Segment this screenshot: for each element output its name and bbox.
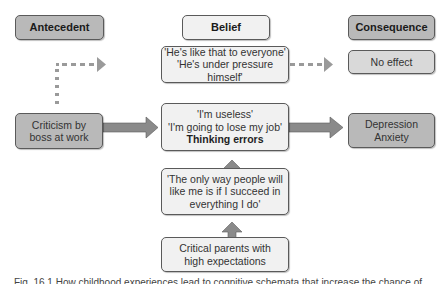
alt-belief-line1: 'He's like that to everyone'	[164, 46, 286, 59]
belief-header-label: Belief	[211, 21, 241, 34]
belief-header: Belief	[182, 15, 270, 40]
consequence-header-label: Consequence	[355, 21, 427, 34]
core-belief-line3: everything I do'	[190, 198, 261, 211]
no-effect-label: No effect	[371, 56, 413, 69]
parents-line1: Critical parents with	[179, 242, 271, 255]
critical-parents-node: Critical parents with high expectations	[161, 237, 289, 272]
arrow-belief-to-depression	[289, 117, 343, 138]
belief-main-line3: Thinking errors	[186, 133, 263, 146]
core-belief-line1: 'The only way people will	[167, 173, 283, 186]
arrow-criticism-to-belief	[103, 117, 158, 138]
dotted-arrow-criticism-to-alt-belief	[55, 57, 106, 104]
alt-belief-line2: 'He's under pressure himself'	[162, 58, 288, 83]
core-belief-node: 'The only way people will like me is if …	[161, 168, 289, 215]
depression-anxiety-node: Depression Anxiety	[348, 113, 435, 148]
alternative-belief-node: 'He's like that to everyone' 'He's under…	[161, 46, 289, 83]
parents-line2: high expectations	[184, 255, 266, 268]
belief-main-line2: 'I'm going to lose my job'	[168, 121, 282, 134]
criticism-line2: boss at work	[30, 131, 89, 144]
antecedent-header: Antecedent	[15, 15, 104, 40]
dotted-arrow-alt-belief-to-no-effect	[290, 57, 333, 72]
antecedent-header-label: Antecedent	[30, 21, 90, 34]
belief-thinking-errors-node: 'I'm useless' 'I'm going to lose my job'…	[161, 103, 289, 151]
figure-caption: Fig. 16.1 How childhood experiences lead…	[14, 276, 444, 284]
consequence-header: Consequence	[348, 15, 435, 40]
depression-line2: Anxiety	[374, 131, 408, 144]
criticism-line1: Criticism by	[32, 119, 86, 132]
belief-main-line1: 'I'm useless'	[197, 108, 253, 121]
depression-line1: Depression	[365, 118, 418, 131]
criticism-node: Criticism by boss at work	[15, 113, 103, 149]
no-effect-node: No effect	[348, 50, 435, 74]
core-belief-line2: like me is if I succeed in	[170, 185, 281, 198]
arrow-parents-to-core-belief	[222, 222, 242, 238]
